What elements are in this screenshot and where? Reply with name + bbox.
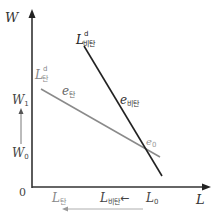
y-axis-label: W <box>5 10 20 25</box>
w1-label: W1 <box>12 93 29 108</box>
elastic-equilibrium-label: e탄 <box>62 84 76 99</box>
elastic-employment-label: L탄 <box>51 191 67 206</box>
inelastic-demand-curve <box>84 46 162 176</box>
employment-arrow-head-icon <box>62 207 68 212</box>
x-axis-label: L <box>195 192 205 207</box>
inelastic-demand-label: Ld비탄 <box>75 30 96 48</box>
elastic-demand-curve <box>41 89 160 157</box>
w0-label: W0 <box>12 146 29 161</box>
initial-equilibrium-label: e0 <box>146 136 156 149</box>
y-axis-arrow-icon <box>29 9 36 18</box>
x-axis-arrow-icon <box>202 184 211 191</box>
shift-arrow-icon: ← <box>120 192 129 205</box>
inelastic-employment-label: L비탄← <box>99 191 129 206</box>
initial-employment-label: L0 <box>145 191 158 206</box>
inelastic-equilibrium-label: e비탄 <box>120 93 140 108</box>
elastic-demand-label: Ld탄 <box>34 65 49 83</box>
origin-label: 0 <box>19 186 26 199</box>
labor-demand-diagram: W L 0 W1 W0 Ld비탄 Ld탄 e탄 e비탄 e0 L탄 L비탄← L… <box>0 0 218 224</box>
wage-arrow-head-icon <box>19 108 24 114</box>
